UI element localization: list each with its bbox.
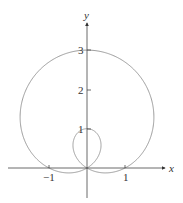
polar-plot: x y −1 1 1 2 3 [0, 0, 183, 203]
y-tick-label-1: 1 [78, 123, 84, 135]
x-tick-label-neg1: −1 [43, 171, 55, 183]
y-tick-label-3: 3 [78, 44, 84, 56]
x-axis-label: x [168, 162, 174, 174]
y-tick-label-2: 2 [78, 84, 84, 96]
y-axis-label: y [83, 9, 89, 21]
x-tick-label-1: 1 [123, 171, 129, 183]
